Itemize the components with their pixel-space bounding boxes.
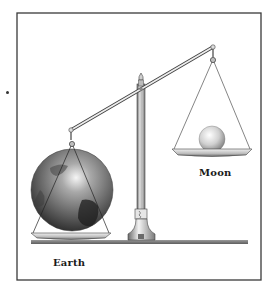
moon-sphere	[199, 126, 225, 152]
earth-label: Earth	[53, 257, 85, 268]
right-pan	[172, 149, 252, 157]
earth-globe	[31, 149, 113, 231]
balance-scale-illustration: Moon Earth	[0, 0, 272, 289]
left-pan	[31, 233, 111, 240]
base-platform	[31, 240, 248, 244]
pillar	[128, 84, 155, 240]
left-hanger	[69, 132, 74, 147]
stray-dot-mark	[6, 91, 9, 94]
moon-label: Moon	[199, 167, 231, 178]
scale-drawing	[0, 0, 272, 289]
